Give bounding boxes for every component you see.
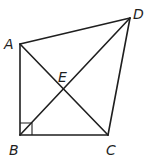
label-e: E [58,69,67,85]
geometry-diagram: A D E B C [0,0,154,157]
label-b: B [9,142,19,157]
label-c: C [106,142,116,157]
label-a: A [3,36,14,52]
segment-cd [108,18,130,135]
segment-da [20,18,130,44]
diagonal-bd [20,18,130,135]
label-d: D [133,6,144,22]
